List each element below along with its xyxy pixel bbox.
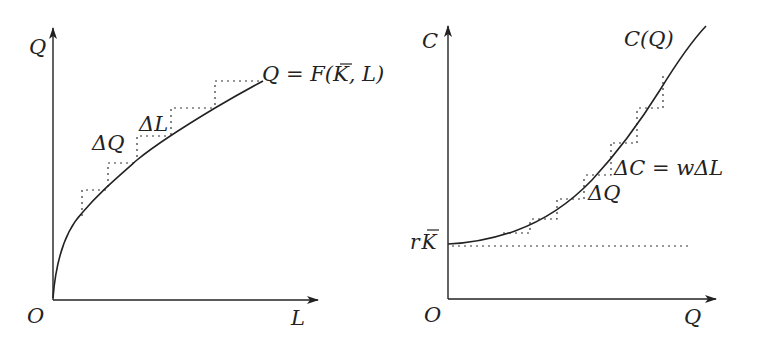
cost-curve <box>448 26 706 244</box>
origin-label-right: O <box>424 303 441 327</box>
production-function-panel: Q O L Q = F(K, L) ΔQ ΔL <box>27 28 384 330</box>
delta-l-label: ΔL <box>138 112 168 136</box>
production-curve-label: Q = F(K, L) <box>262 62 384 86</box>
fixed-cost-label: rK <box>410 230 438 254</box>
origin-label: O <box>27 304 44 328</box>
delta-q-label-right: ΔQ <box>587 181 620 205</box>
cost-function-panel: C O Q C(Q) rK ΔC = wΔL ΔQ <box>410 26 723 329</box>
c-axis-label: C <box>422 29 438 53</box>
q-axis-label: Q <box>29 35 46 59</box>
l-axis-label: L <box>290 306 305 330</box>
cost-staircase <box>503 75 663 233</box>
diagram-canvas: Q O L Q = F(K, L) ΔQ ΔL C O Q C(Q) r <box>0 0 765 354</box>
cost-curve-label: C(Q) <box>624 27 674 51</box>
delta-c-label: ΔC = wΔL <box>613 156 723 180</box>
delta-q-label: ΔQ <box>91 131 124 155</box>
q-axis-label-right: Q <box>684 305 701 329</box>
